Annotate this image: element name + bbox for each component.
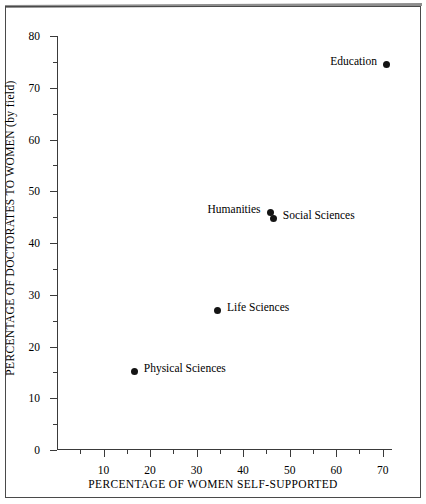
y-tick-minor — [53, 321, 57, 322]
y-tick-major: 30 — [50, 295, 57, 296]
x-tick-label: 70 — [377, 464, 389, 476]
data-point-marker: Life Sciences — [214, 307, 221, 314]
data-point-marker: Physical Sciences — [131, 368, 138, 375]
scatter-plot-figure: tt 01020304050607080 10203040506070 Educ… — [0, 0, 426, 504]
x-tick-minor — [220, 450, 221, 454]
y-tick-minor — [53, 165, 57, 166]
y-tick-major: 70 — [50, 88, 57, 89]
y-tick-label: 40 — [29, 237, 41, 249]
y-tick-minor — [53, 372, 57, 373]
x-tick-minor — [266, 450, 267, 454]
y-tick-minor — [53, 114, 57, 115]
y-tick-label: 80 — [29, 30, 41, 42]
x-tick-label: 60 — [330, 464, 342, 476]
y-tick-label: 50 — [29, 185, 41, 197]
x-axis-title: PERCENTAGE OF WOMEN SELF-SUPPORTED — [0, 478, 426, 490]
y-tick-label: 20 — [29, 341, 41, 353]
x-axis-line — [57, 449, 392, 450]
x-tick-minor — [359, 450, 360, 454]
x-tick-label: 10 — [98, 464, 110, 476]
x-tick-major: 20 — [150, 450, 151, 457]
y-tick-major: 80 — [50, 36, 57, 37]
y-tick-label: 30 — [29, 289, 41, 301]
y-tick-label: 60 — [29, 134, 41, 146]
y-tick-minor — [53, 217, 57, 218]
y-tick-major: 40 — [50, 243, 57, 244]
data-point-label: Social Sciences — [283, 209, 355, 221]
x-tick-major: 10 — [104, 450, 105, 457]
x-tick-label: 30 — [191, 464, 203, 476]
y-tick-major: 60 — [50, 140, 57, 141]
data-point-label: Humanities — [208, 203, 261, 215]
x-tick-label: 50 — [284, 464, 296, 476]
cropped-caption-fragment: tt — [0, 0, 426, 1]
x-tick-major: 60 — [336, 450, 337, 457]
y-tick-label: 10 — [29, 392, 41, 404]
y-axis-line — [57, 36, 58, 450]
x-tick-minor — [127, 450, 128, 454]
data-point-label: Life Sciences — [227, 301, 289, 313]
y-tick-major: 50 — [50, 191, 57, 192]
y-tick-major: 10 — [50, 398, 57, 399]
x-tick-minor — [173, 450, 174, 454]
x-tick-major: 70 — [383, 450, 384, 457]
data-point-marker: Social Sciences — [270, 215, 277, 222]
x-tick-label: 20 — [144, 464, 156, 476]
y-tick-label: 70 — [29, 82, 41, 94]
y-tick-minor — [53, 424, 57, 425]
x-tick-label: 40 — [237, 464, 249, 476]
data-point-marker: Education — [383, 61, 390, 68]
y-tick-major: 20 — [50, 347, 57, 348]
x-tick-major: 50 — [290, 450, 291, 457]
x-tick-major: 30 — [197, 450, 198, 457]
y-tick-major: 0 — [50, 450, 57, 451]
data-point-label: Physical Sciences — [144, 362, 226, 374]
x-tick-minor — [313, 450, 314, 454]
x-tick-minor — [80, 450, 81, 454]
x-tick-major: 40 — [243, 450, 244, 457]
y-axis-title: PERCENTAGE OF DOCTORATES TO WOMEN (by fi… — [4, 13, 16, 443]
y-tick-label: 0 — [34, 444, 40, 456]
y-tick-minor — [53, 62, 57, 63]
data-point-label: Education — [330, 55, 377, 67]
y-tick-minor — [53, 269, 57, 270]
plot-area: 01020304050607080 10203040506070 Educati… — [57, 36, 392, 450]
